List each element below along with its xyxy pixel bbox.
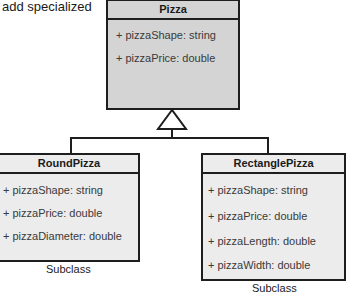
attribute: + pizzaDiameter: double [3,230,122,242]
generalization-arrow-icon [158,110,186,129]
class-name: RectanglePizza [203,155,344,174]
attribute: + pizzaWidth: double [208,259,310,271]
class-name: RoundPizza [0,155,138,174]
attribute: + pizzaPrice: double [3,207,102,219]
attribute: + pizzaPrice: double [116,52,215,64]
class-box-roundpizza[interactable]: RoundPizza + pizzaShape: string + pizzaP… [0,153,140,262]
attribute: + pizzaLength: double [208,235,316,247]
subclass-label: Subclass [46,263,91,275]
class-box-pizza[interactable]: Pizza + pizzaShape: string + pizzaPrice:… [106,0,240,110]
attribute: + pizzaShape: string [3,184,103,196]
class-box-rectanglepizza[interactable]: RectanglePizza + pizzaShape: string + pi… [201,153,346,281]
subclass-label: Subclass [252,282,297,294]
attribute: + pizzaShape: string [116,29,216,41]
attribute: + pizzaPrice: double [208,210,307,222]
attribute: + pizzaShape: string [208,184,308,196]
class-name: Pizza [108,1,238,20]
